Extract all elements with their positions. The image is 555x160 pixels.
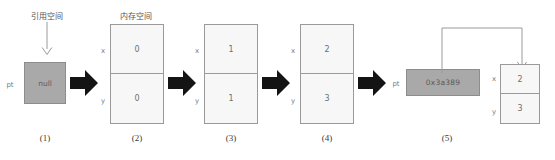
stage4-caption: (4) (300, 133, 354, 143)
stage2-caption: (2) (110, 133, 164, 143)
stage2-x-value: 0 (134, 45, 139, 54)
flow-arrow-icon-1 (70, 70, 98, 96)
stage5-x-value: 2 (517, 75, 522, 84)
stage4-y-cell: 3 (300, 74, 354, 124)
stage3-y-cell: 1 (204, 74, 258, 124)
stage4-y-label: y (288, 97, 298, 105)
stage1-pointer-value: null (38, 79, 52, 88)
flow-arrow-icon-4 (358, 70, 386, 96)
stage3-y-label: y (192, 97, 202, 105)
stage5-y-cell: 3 (500, 94, 540, 124)
stage5-caption: (5) (420, 133, 474, 143)
stage2-x-label: x (98, 47, 108, 55)
memory-space-title: 内存空间 (98, 10, 174, 21)
stage3-x-cell: 1 (204, 24, 258, 74)
stage4-x-cell: 2 (300, 24, 354, 74)
stage1-pointer-box: null (24, 62, 66, 104)
stage1-pointer-label: pt (2, 81, 18, 89)
stage4-y-value: 3 (324, 94, 329, 103)
flow-arrow-icon-2 (168, 70, 196, 96)
down-arrow-icon (38, 22, 56, 56)
stage3-x-value: 1 (228, 45, 233, 54)
stage3-x-label: x (192, 47, 202, 55)
stage5-x-label: x (489, 75, 499, 83)
stage5-pointer-label: pt (389, 80, 403, 88)
stage3-y-value: 1 (228, 94, 233, 103)
stage2-y-value: 0 (134, 94, 139, 103)
stage2-y-label: y (98, 97, 108, 105)
stage2-y-cell: 0 (110, 74, 164, 124)
stage5-y-value: 3 (517, 104, 522, 113)
stage3-caption: (3) (204, 133, 258, 143)
stage5-pointer-value: 0x3a389 (426, 78, 460, 87)
stage5-y-label: y (489, 108, 499, 116)
stage4-x-label: x (288, 47, 298, 55)
stage2-x-cell: 0 (110, 24, 164, 74)
stage4-x-value: 2 (324, 45, 329, 54)
stage1-caption: (1) (18, 133, 72, 143)
pointer-memory-diagram: 引用空间 内存空间 pt null (1) x y 0 0 (2) x y 1 … (0, 0, 555, 160)
flow-arrow-icon-3 (262, 70, 290, 96)
reference-space-title: 引用空间 (4, 10, 90, 21)
stage5-x-cell: 2 (500, 64, 540, 94)
